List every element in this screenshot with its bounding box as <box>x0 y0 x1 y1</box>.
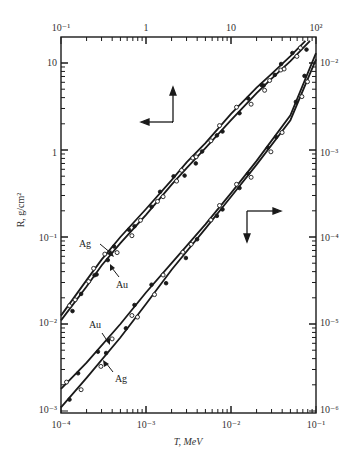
data-point <box>209 218 213 222</box>
data-point <box>158 190 162 194</box>
data-point <box>150 283 154 287</box>
data-point <box>263 88 267 92</box>
label-au-high: Au <box>116 279 128 290</box>
data-point <box>99 364 103 368</box>
data-point <box>246 97 250 101</box>
bottom-axis-labels: 10⁻⁴ 10⁻³ 10⁻² 10⁻¹ <box>52 419 326 430</box>
label-ag-low: Ag <box>115 373 127 384</box>
bottom-tick-label: 10⁻³ <box>137 419 155 430</box>
data-point <box>181 250 185 254</box>
top-tick-label: 10⁻¹ <box>52 22 70 33</box>
data-point <box>194 155 198 159</box>
y-axis-title: R, g/cm² <box>15 193 26 228</box>
data-point <box>268 79 272 83</box>
data-point <box>96 350 100 354</box>
data-point <box>249 175 253 179</box>
data-point <box>68 304 72 308</box>
data-point <box>104 351 108 355</box>
right-tick-label: 10⁻³ <box>320 147 338 158</box>
data-point <box>130 234 134 238</box>
label-ag-high: Ag <box>79 238 91 249</box>
data-point <box>238 111 242 115</box>
top-tick-label: 1 <box>144 22 149 33</box>
right-tick-label: 10⁻⁵ <box>320 317 339 328</box>
left-tick-label: 10⁻¹ <box>39 232 57 243</box>
data-point <box>87 280 91 284</box>
data-point <box>246 172 250 176</box>
data-point <box>68 398 72 402</box>
data-point <box>235 182 239 186</box>
data-point <box>209 139 213 143</box>
data-point <box>303 74 307 78</box>
data-point <box>282 67 286 71</box>
top-axis-labels: 10⁻¹ 1 10 10² <box>52 22 323 33</box>
data-point <box>274 135 278 139</box>
data-point <box>269 150 273 154</box>
arrow-left-icon <box>141 119 149 125</box>
data-point <box>180 168 184 172</box>
data-point <box>79 292 83 296</box>
data-point <box>124 327 128 331</box>
data-point <box>139 218 143 222</box>
right-tick-label: 10⁻⁴ <box>320 232 339 243</box>
curve-ag <box>61 59 316 407</box>
data-point <box>71 309 75 313</box>
bottom-tick-label: 10⁻² <box>222 419 240 430</box>
data-point <box>73 298 77 302</box>
data-point <box>112 245 116 249</box>
plot-frame <box>61 37 316 413</box>
data-point <box>195 238 199 242</box>
left-axis-labels: 10 1 10⁻¹ 10⁻² 10⁻³ <box>39 57 57 415</box>
data-point <box>161 273 165 277</box>
data-point <box>194 162 198 166</box>
data-point <box>221 130 225 134</box>
data-point <box>300 95 304 99</box>
data-point <box>115 251 119 255</box>
data-point <box>183 174 187 178</box>
data-point <box>172 175 176 179</box>
data-point <box>79 388 83 392</box>
bottom-tick-label: 10⁻⁴ <box>52 419 71 430</box>
data-point <box>156 199 160 203</box>
data-point <box>238 186 242 190</box>
data-point <box>65 380 69 384</box>
data-point <box>153 293 157 297</box>
data-point <box>235 105 239 109</box>
range-energy-chart: 10⁻¹ 1 10 10² 10⁻⁴ 10⁻³ 10⁻² 10⁻¹ 10 1 1… <box>0 0 360 463</box>
data-point <box>306 80 310 84</box>
data-point <box>249 102 253 106</box>
data-point <box>273 73 277 77</box>
data-point <box>189 242 193 246</box>
axis-indicator-low-energy <box>244 208 281 242</box>
data-point <box>215 134 219 138</box>
data-point <box>133 303 137 307</box>
left-tick-label: 10⁻³ <box>39 404 57 415</box>
data-point <box>92 266 96 270</box>
data-point <box>305 48 309 52</box>
data-point <box>200 150 204 154</box>
data-point <box>161 195 165 199</box>
x-axis-title: T, MeV <box>174 436 205 447</box>
data-point <box>291 51 295 55</box>
data-point <box>103 252 107 256</box>
left-tick-label: 1 <box>52 147 57 158</box>
axis-indicator-high-energy <box>141 87 176 125</box>
axis-ticks <box>61 37 316 413</box>
label-au-low: Au <box>89 319 101 330</box>
right-axis-labels: 10⁻² 10⁻³ 10⁻⁴ 10⁻⁵ 10⁻⁶ <box>320 57 339 415</box>
top-tick-label: 10² <box>310 22 323 33</box>
right-tick-label: 10⁻⁶ <box>320 404 339 415</box>
data-point <box>164 281 168 285</box>
data-point <box>110 337 114 341</box>
data-point <box>279 62 283 66</box>
right-tick-label: 10⁻² <box>320 57 338 68</box>
data-point <box>184 256 188 260</box>
data-point <box>295 54 299 58</box>
data-point <box>130 314 134 318</box>
arrow-up-icon <box>170 87 176 95</box>
curve-au <box>61 41 310 321</box>
bottom-tick-label: 10⁻¹ <box>307 419 325 430</box>
data-point <box>150 205 154 209</box>
data-point <box>298 46 302 50</box>
data-point <box>106 258 110 262</box>
